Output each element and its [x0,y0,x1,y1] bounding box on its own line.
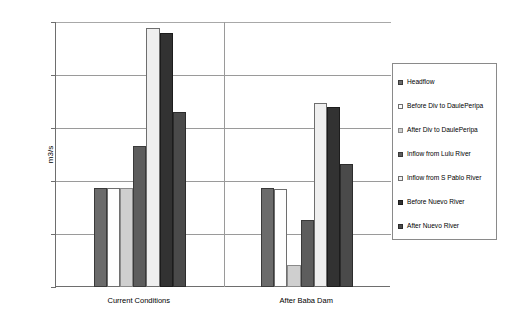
legend-label: Before Div to DaulePeripa [407,94,483,118]
bar [160,33,173,287]
legend-swatch-icon [398,128,403,133]
legend-label: After Nuevo River [407,214,459,238]
bar [340,164,353,287]
legend-item[interactable]: Before Div to DaulePeripa [398,94,496,118]
y-axis-title: m3/s [46,125,55,185]
legend-swatch-icon [398,152,403,157]
legend-item[interactable]: After Div to DaulePeripa [398,118,496,142]
legend-label: Inflow from Lulu River [407,142,471,166]
legend-item[interactable]: Headflow [398,70,496,94]
bar [287,265,300,287]
legend-swatch-icon [398,80,403,85]
y-tick-0 [51,287,56,288]
bar [107,188,120,287]
legend-item[interactable]: Inflow from Lulu River [398,142,496,166]
bar [133,146,146,287]
bar [301,220,314,287]
bar [173,112,186,287]
bar-chart: m3/s 050100150200250 Current ConditionsA… [0,0,522,319]
bar [120,188,133,287]
bar [261,188,274,287]
bars-layer [56,22,391,287]
category-label-0: Current Conditions [55,296,223,305]
category-label-1: After Baba Dam [223,296,391,305]
bar [274,189,287,287]
legend-swatch-icon [398,176,403,181]
legend-swatch-icon [398,224,403,229]
bar [314,103,327,287]
legend-swatch-icon [398,200,403,205]
bar [94,188,107,287]
legend-label: Headflow [407,70,435,94]
legend: HeadflowBefore Div to DaulePeripaAfter D… [392,63,497,240]
legend-label: After Div to DaulePeripa [407,118,478,142]
legend-item[interactable]: Before Nuevo River [398,190,496,214]
legend-items: HeadflowBefore Div to DaulePeripaAfter D… [398,70,496,238]
legend-swatch-icon [398,104,403,109]
legend-item[interactable]: Inflow from S Pablo River [398,166,496,190]
plot-area [55,22,390,287]
legend-label: Before Nuevo River [407,190,465,214]
bar [146,28,159,287]
bar [327,107,340,287]
legend-item[interactable]: After Nuevo River [398,214,496,238]
legend-label: Inflow from S Pablo River [407,166,481,190]
